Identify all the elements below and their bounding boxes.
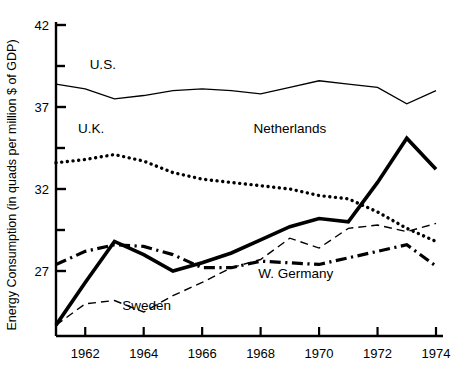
x-axis-tick-label: 1968 <box>246 346 275 361</box>
x-axis-tick-label: 1964 <box>129 346 158 361</box>
energy-consumption-line-chart: 423732271962196419661968197019721974Ener… <box>0 0 460 383</box>
y-axis-tick-label: 32 <box>35 182 49 197</box>
x-axis-tick-label: 1974 <box>422 346 451 361</box>
series-line-u-s <box>56 81 436 104</box>
x-axis-tick-label: 1966 <box>188 346 217 361</box>
series-label-u-k: U.K. <box>78 121 104 136</box>
series-line-u-k <box>56 155 436 242</box>
series-line-netherlands <box>56 138 436 325</box>
y-axis-tick-label: 27 <box>35 264 49 279</box>
x-axis-tick-label: 1970 <box>305 346 334 361</box>
series-label-sweden: Sweden <box>122 298 171 313</box>
series-label-u-s: U.S. <box>90 57 116 72</box>
series-line-sweden <box>56 223 436 325</box>
y-axis-tick-label: 37 <box>35 100 49 115</box>
x-axis-tick-label: 1972 <box>363 346 392 361</box>
y-axis-title: Energy Consumption (in quads per million… <box>5 39 19 330</box>
series-label-netherlands: Netherlands <box>253 121 326 136</box>
series-label-w-germany: W. Germany <box>258 266 333 281</box>
y-axis-tick-label: 42 <box>35 18 49 33</box>
chart-canvas: 423732271962196419661968197019721974Ener… <box>0 0 460 383</box>
x-axis-tick-label: 1962 <box>71 346 100 361</box>
